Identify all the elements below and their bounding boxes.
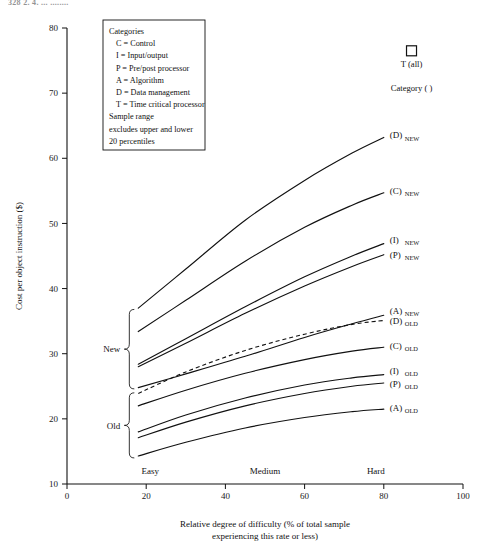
legend-line: I = Input/output xyxy=(116,51,169,60)
curve-end-label: (C)OLD xyxy=(390,341,419,352)
y-axis-title: Cost per object instruction ($) xyxy=(14,202,24,310)
curve-label-sub: OLD xyxy=(405,383,419,390)
chart-curve-labels: (D)NEW(C)NEW(I)NEW(P)NEW(A)NEW(D)OLD(C)O… xyxy=(390,130,421,413)
curve-c-new xyxy=(138,193,384,332)
legend-line: P = Pre/post processor xyxy=(116,64,189,73)
categories-legend-box: CategoriesC = ControlI = Input/outputP =… xyxy=(103,20,205,150)
chart-curves xyxy=(138,137,384,456)
x-tick-label: 0 xyxy=(65,491,70,501)
band-label-easy: Easy xyxy=(141,466,159,476)
bracket-label-new: New xyxy=(103,344,120,354)
cost-per-object-instruction-chart: 1020304050607080 020406080100 (D)NEW(C)N… xyxy=(0,0,485,555)
difficulty-band-labels: EasyMediumHard xyxy=(141,466,385,476)
curve-label-sub: OLD xyxy=(405,345,419,352)
curve-d-new xyxy=(138,137,384,308)
curve-label-sub: NEW xyxy=(405,135,421,142)
curve-end-label: (A)OLD xyxy=(390,403,419,414)
legend-line: Sample range xyxy=(109,112,154,121)
curve-a-old xyxy=(138,409,384,456)
curve-end-label: (P)NEW xyxy=(390,250,421,261)
y-tick-label: 80 xyxy=(49,23,59,33)
curve-label-sub: NEW xyxy=(405,310,421,317)
y-tick-label: 30 xyxy=(49,349,59,359)
curve-label-sub: OLD xyxy=(405,407,419,414)
legend-line: T = Time critical processor xyxy=(116,100,205,109)
y-axis-ticks: 1020304050607080 xyxy=(49,23,67,489)
legend-line: excludes upper and lower xyxy=(109,125,193,134)
curve-label-main: (A) xyxy=(390,306,403,316)
curve-end-label: (D)NEW xyxy=(390,130,421,141)
curve-label-sub: NEW xyxy=(405,239,421,246)
y-tick-label: 60 xyxy=(49,153,59,163)
curve-label-main: (C) xyxy=(390,341,402,351)
curve-label-main: (D) xyxy=(390,130,403,140)
bracket-new xyxy=(124,309,134,388)
marker-label: T (all) xyxy=(401,59,423,69)
x-tick-label: 60 xyxy=(300,491,310,501)
y-tick-label: 40 xyxy=(49,284,59,294)
y-tick-label: 50 xyxy=(49,219,59,229)
legend-line: Categories xyxy=(109,27,144,36)
y-tick-label: 70 xyxy=(49,88,59,98)
y-tick-label: 10 xyxy=(49,479,59,489)
x-axis-title-line-1: Relative degree of difficulty (% of tota… xyxy=(180,519,350,529)
curve-i-old xyxy=(138,375,384,432)
curve-label-main: (D) xyxy=(390,316,403,326)
band-label-hard: Hard xyxy=(367,466,385,476)
legend-line: A = Algorithm xyxy=(116,76,164,85)
curve-label-main: (P) xyxy=(390,250,401,260)
x-tick-label: 20 xyxy=(142,491,152,501)
marker-caption: Category ( ) xyxy=(391,83,433,93)
y-tick-label: 20 xyxy=(49,414,59,424)
curve-label-sub: NEW xyxy=(405,254,421,261)
legend-line: D = Data management xyxy=(116,88,191,97)
legend-line: C = Control xyxy=(116,39,156,48)
curve-end-label: (I)OLD xyxy=(390,366,419,377)
curve-p-new xyxy=(138,255,384,367)
legend-line: 20 percentiles xyxy=(109,137,155,146)
curve-end-label: (P)OLD xyxy=(390,379,419,390)
bracket-old xyxy=(124,393,134,458)
curve-i-new xyxy=(138,244,384,365)
curve-d-old xyxy=(138,320,384,393)
x-axis-title-line-2: experiencing this rate or less) xyxy=(212,531,318,541)
curve-label-main: (A) xyxy=(390,403,403,413)
t-all-marker: T (all) Category ( ) xyxy=(391,46,433,93)
x-tick-label: 100 xyxy=(456,491,470,501)
curve-end-label: (C)NEW xyxy=(390,186,421,197)
curve-label-main: (I) xyxy=(390,235,399,245)
curve-end-label: (D)OLD xyxy=(390,316,419,327)
curve-label-sub: OLD xyxy=(405,370,419,377)
curve-label-sub: OLD xyxy=(405,320,419,327)
chart-page: 328 2. 4. ... ........ 1020304050607080 … xyxy=(0,0,485,555)
curve-label-sub: NEW xyxy=(405,190,421,197)
x-tick-label: 80 xyxy=(379,491,389,501)
curve-label-main: (P) xyxy=(390,379,401,389)
x-tick-label: 40 xyxy=(221,491,231,501)
band-label-medium: Medium xyxy=(250,466,281,476)
bracket-label-old: Old xyxy=(107,421,121,431)
curve-label-main: (I) xyxy=(390,366,399,376)
curve-label-main: (C) xyxy=(390,186,402,196)
curve-p-old xyxy=(138,383,384,438)
x-axis-ticks: 020406080100 xyxy=(65,484,471,501)
curve-end-label: (I)NEW xyxy=(390,235,421,246)
square-marker-icon xyxy=(407,46,417,56)
group-brackets: NewOld xyxy=(103,309,134,458)
